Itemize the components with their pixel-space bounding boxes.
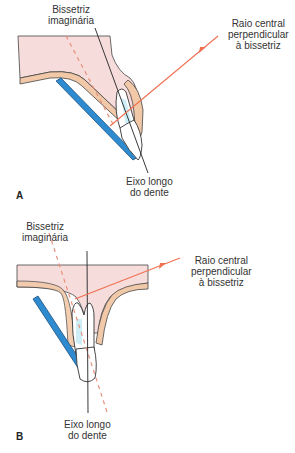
bisector-label: Bissetriz imaginária (22, 221, 68, 243)
panel-b: Bissetriz imaginária Raio central perpen… (0, 215, 295, 453)
central-ray-label: Raio central perpendicular à bissetriz (191, 255, 252, 288)
panel-letter-a: A (16, 190, 23, 201)
bisector-label: Bissetriz imaginária (48, 4, 94, 26)
central-ray-arrowhead (159, 263, 166, 269)
panel-letter-b: B (16, 431, 23, 442)
panel-a: Bissetriz imaginária Raio central perpen… (0, 0, 295, 215)
central-ray-arrowhead (199, 47, 206, 53)
panel-b-illustration (0, 215, 295, 453)
tooth-axis-label: Eixo longo do dente (126, 176, 173, 198)
tooth-crown (76, 347, 96, 382)
tooth-axis-label: Eixo longo do dente (64, 419, 111, 441)
central-ray-label: Raio central perpendicular à bissetriz (228, 18, 289, 51)
